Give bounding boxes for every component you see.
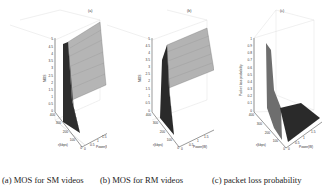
svg-text:0.7: 0.7	[248, 58, 253, 62]
svg-text:0.5: 0.5	[146, 101, 151, 105]
z-axis-label-c: Packet loss probability	[239, 64, 243, 96]
svg-text:1.5: 1.5	[49, 88, 54, 92]
svg-text:300: 300	[153, 121, 159, 125]
x-axis-label-c: r(kbps)	[256, 143, 266, 147]
chart-b: 54.54 3.532.5 21.51 0.50 MOS 400300200 1…	[107, 0, 214, 155]
svg-text:5: 5	[148, 37, 150, 41]
svg-text:400: 400	[50, 113, 56, 117]
svg-text:0.8: 0.8	[248, 51, 253, 55]
svg-text:0.3: 0.3	[248, 87, 253, 91]
caption-b: (b) MOS for RM videos	[100, 175, 183, 185]
panel-title-a: (a)	[88, 9, 92, 13]
z-axis-label-a: MOS	[43, 75, 47, 82]
svg-text:4.5: 4.5	[49, 45, 54, 49]
svg-text:0.5: 0.5	[49, 102, 54, 106]
svg-text:3: 3	[51, 66, 53, 70]
svg-text:4.5: 4.5	[146, 44, 151, 48]
svg-text:0: 0	[283, 147, 285, 151]
svg-text:2.5: 2.5	[146, 72, 151, 76]
svg-text:0: 0	[181, 147, 183, 151]
svg-text:3.5: 3.5	[49, 59, 54, 63]
svg-text:0.5: 0.5	[248, 73, 253, 77]
svg-text:1: 1	[250, 37, 252, 41]
svg-text:0.9: 0.9	[248, 44, 253, 48]
svg-text:0.2: 0.2	[248, 94, 253, 98]
svg-text:1.5: 1.5	[204, 135, 209, 139]
svg-text:100: 100	[70, 138, 76, 142]
caption-a: (a) MOS for SM videos	[2, 175, 84, 185]
svg-text:300: 300	[56, 121, 62, 125]
svg-text:0: 0	[177, 146, 179, 150]
svg-text:1.5: 1.5	[311, 130, 316, 134]
svg-text:200: 200	[63, 130, 69, 134]
x-axis-label-b: r(kbps)	[153, 143, 163, 147]
svg-text:0: 0	[80, 146, 82, 150]
svg-text:1: 1	[51, 95, 53, 99]
chart-c: 10.90.8 0.70.60.5 0.40.30.2 0.10 Packet …	[214, 0, 322, 155]
svg-text:3: 3	[148, 65, 150, 69]
y-axis-label-b: Power(W)	[193, 145, 207, 149]
svg-text:0.1: 0.1	[248, 101, 253, 105]
surface-plot-b: 54.54 3.532.5 21.51 0.50 MOS 400300200 1…	[107, 0, 214, 155]
z-axis-label-b: MOS	[138, 75, 142, 82]
svg-text:2: 2	[148, 79, 150, 83]
surface-plot-a: 54.54 3.532.5 21.51 0.50 MOS 400300200 1…	[0, 0, 107, 155]
svg-text:400: 400	[249, 113, 255, 117]
y-axis-label-c: Power(W)	[299, 145, 313, 149]
svg-text:0.6: 0.6	[248, 66, 253, 70]
y-axis-label-a: Power(W)	[96, 145, 107, 149]
panel-title-b: (b)	[187, 9, 191, 13]
panel-title-c: (c)	[280, 9, 284, 13]
svg-text:1: 1	[303, 136, 305, 140]
svg-text:5: 5	[51, 37, 53, 41]
svg-text:1: 1	[197, 139, 199, 143]
svg-text:4: 4	[51, 52, 53, 56]
svg-text:300: 300	[257, 122, 263, 126]
svg-text:100: 100	[167, 138, 173, 142]
svg-text:4: 4	[148, 51, 150, 55]
svg-text:200: 200	[160, 130, 166, 134]
svg-text:1.5: 1.5	[102, 135, 107, 139]
svg-text:0: 0	[288, 147, 290, 151]
svg-text:400: 400	[146, 113, 152, 117]
svg-text:1.5: 1.5	[146, 87, 151, 91]
svg-text:1: 1	[97, 139, 99, 143]
x-axis-label-a: r(kbps)	[58, 143, 68, 147]
svg-text:3.5: 3.5	[146, 58, 151, 62]
caption-c: (c) packet loss probability	[212, 175, 302, 185]
svg-text:0: 0	[84, 147, 86, 151]
svg-text:2: 2	[51, 81, 53, 85]
svg-text:1: 1	[148, 94, 150, 98]
svg-text:2.5: 2.5	[49, 74, 54, 78]
surface-plot-c: 10.90.8 0.70.60.5 0.40.30.2 0.10 Packet …	[214, 0, 322, 155]
svg-text:100: 100	[273, 139, 279, 143]
svg-text:0.5: 0.5	[90, 143, 95, 147]
svg-text:0.4: 0.4	[248, 80, 253, 84]
chart-a: 54.54 3.532.5 21.51 0.50 MOS 400300200 1…	[0, 0, 107, 155]
svg-text:200: 200	[265, 131, 271, 135]
